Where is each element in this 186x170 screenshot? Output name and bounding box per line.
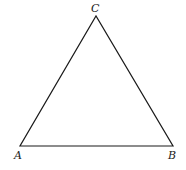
vertex-label-c: C bbox=[91, 2, 100, 15]
vertex-label-b: B bbox=[167, 149, 176, 162]
triangle-canvas: C A B bbox=[0, 0, 186, 170]
triangle-diagram: C A B bbox=[0, 0, 186, 170]
triangle-abc bbox=[20, 16, 173, 146]
vertex-label-a: A bbox=[13, 149, 22, 162]
